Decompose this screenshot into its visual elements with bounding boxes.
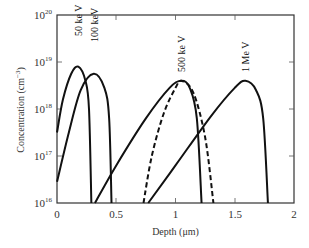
label-1mev: 1 Me V: [240, 41, 251, 72]
curve-0: [57, 66, 91, 203]
label-100kev: 100 keV: [89, 7, 100, 42]
y-tick-labels: 1016 1017 1018 1019 1020: [34, 8, 53, 209]
y-tick-1e16: 1016: [34, 196, 53, 209]
y-axis-ticks: [57, 62, 294, 156]
y-axis-title: Concentration (cm−3): [14, 67, 27, 153]
x-tick-1-5: 1.5: [228, 208, 242, 220]
curve-4: [148, 81, 268, 203]
y-tick-1e18: 1018: [34, 102, 53, 115]
y-tick-1e19: 1019: [34, 55, 53, 68]
x-tick-labels: 0 0.5 1 1.5 2: [54, 208, 297, 220]
implant-profile-chart: 0 0.5 1 1.5 2 1016 1017 1018 1019 1020 D…: [0, 0, 309, 248]
x-tick-2: 2: [291, 208, 297, 220]
x-tick-0-5: 0.5: [109, 208, 123, 220]
curve-3: [144, 81, 214, 203]
label-50kev: 50 ke V: [73, 4, 84, 36]
x-tick-1: 1: [173, 208, 179, 220]
x-axis-title: Depth (μm): [152, 226, 199, 238]
curves: [57, 66, 268, 203]
y-tick-1e17: 1017: [34, 149, 53, 162]
label-500kev: 500 ke V: [176, 35, 187, 72]
y-tick-1e20: 1020: [34, 8, 53, 21]
x-tick-0: 0: [54, 208, 60, 220]
